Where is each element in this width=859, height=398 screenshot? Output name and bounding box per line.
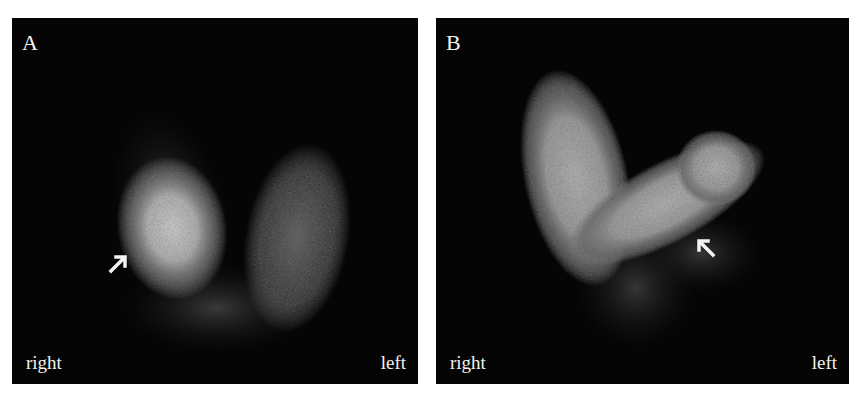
orientation-left-label-b: left [812,352,837,374]
thyroid-scan-image-a [12,18,418,384]
panel-label-a: A [22,30,38,56]
scan-panel-b: B right left [436,18,849,384]
arrow-up-right-icon [108,252,130,274]
orientation-right-label-a: right [26,352,62,374]
orientation-left-label-a: left [381,352,406,374]
panel-label-b: B [446,30,461,56]
thyroid-scan-image-b [436,18,849,384]
arrow-up-left-icon [694,236,716,258]
orientation-right-label-b: right [450,352,486,374]
scan-panel-a: A right left [12,18,418,384]
